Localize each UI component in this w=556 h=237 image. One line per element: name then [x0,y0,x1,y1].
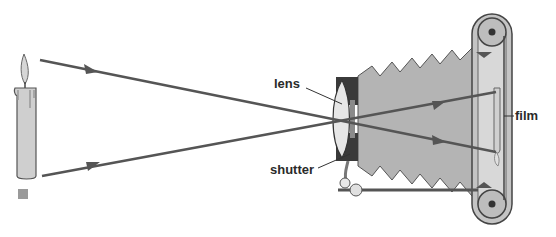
label-film: film [515,108,538,123]
film-frame [472,14,512,224]
diagram-canvas [0,0,556,237]
candle-icon [14,54,36,179]
label-lens: lens [274,76,300,91]
marker-square [18,189,28,199]
inverted-candle-image [494,88,500,153]
label-shutter: shutter [270,162,314,177]
camera-diagram: lens shutter film [0,0,556,237]
